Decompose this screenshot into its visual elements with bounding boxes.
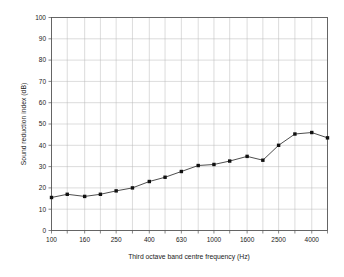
- y-tick-label: 10: [39, 206, 47, 213]
- data-point-marker: [131, 186, 134, 189]
- data-point-marker: [50, 196, 53, 199]
- x-tick-label: 630: [176, 236, 187, 243]
- y-gridlines: [52, 39, 328, 209]
- y-tick-label: 40: [39, 142, 47, 149]
- sound-reduction-index-chart: 0102030405060708090100 10016025040063010…: [0, 0, 344, 277]
- data-point-marker: [245, 155, 248, 158]
- x-tick-label: 250: [111, 236, 122, 243]
- x-axis-title: Third octave band centre frequency (Hz): [128, 253, 250, 261]
- data-point-marker: [197, 164, 200, 167]
- data-point-marker: [228, 159, 231, 162]
- x-tick-label: 400: [144, 236, 155, 243]
- data-point-marker: [148, 180, 151, 183]
- y-axis-title: Sound reduction index (dB): [20, 83, 28, 165]
- x-tick-label: 1000: [207, 236, 222, 243]
- data-point-marker: [212, 163, 215, 166]
- y-tick-label: 0: [42, 227, 46, 234]
- x-tick-label: 160: [79, 236, 90, 243]
- x-tick-label: 100: [46, 236, 57, 243]
- y-tick-label: 80: [39, 56, 47, 63]
- x-tick-label: 2500: [271, 236, 286, 243]
- data-point-marker: [163, 176, 166, 179]
- y-tick-label: 60: [39, 99, 47, 106]
- data-point-marker: [277, 144, 280, 147]
- y-tick-label: 50: [39, 120, 47, 127]
- data-point-marker: [326, 136, 329, 139]
- data-markers: [50, 131, 329, 199]
- data-point-marker: [180, 170, 183, 173]
- data-point-marker: [114, 189, 117, 192]
- y-tick-label: 100: [35, 14, 46, 21]
- data-point-marker: [310, 131, 313, 134]
- data-point-marker: [83, 195, 86, 198]
- x-tick-label: 4000: [305, 236, 320, 243]
- data-point-marker: [99, 193, 102, 196]
- x-tick-labels: 1001602504006301000160025004000: [46, 236, 319, 243]
- data-point-marker: [261, 159, 264, 162]
- data-point-marker: [293, 132, 296, 135]
- y-tick-label: 70: [39, 78, 47, 85]
- x-tick-label: 1600: [240, 236, 255, 243]
- y-tick-label: 20: [39, 184, 47, 191]
- y-tick-label: 30: [39, 163, 47, 170]
- data-point-marker: [66, 193, 69, 196]
- y-tick-label: 90: [39, 35, 47, 42]
- y-tick-labels: 0102030405060708090100: [35, 14, 46, 234]
- chart-figure: 0102030405060708090100 10016025040063010…: [0, 0, 344, 277]
